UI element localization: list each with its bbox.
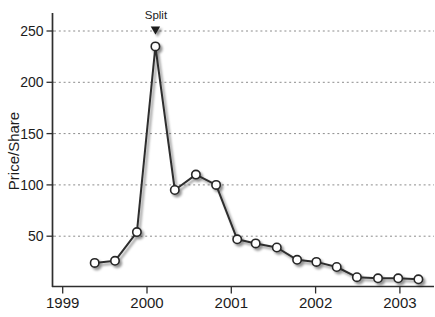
data-point-marker	[151, 42, 159, 50]
x-tick-labels: 19992000200120022003	[46, 294, 417, 311]
data-point-marker	[353, 273, 361, 281]
x-tick-label: 2001	[215, 294, 248, 311]
data-point-marker	[374, 274, 382, 282]
price-share-chart: 50100150200250 19992000200120022003 Pric…	[0, 0, 435, 317]
x-tick-label: 2003	[383, 294, 416, 311]
x-ticks	[63, 287, 400, 294]
data-point-marker	[111, 257, 119, 265]
data-point-marker	[252, 239, 260, 247]
split-annotation-label: Split	[145, 9, 168, 21]
y-tick-label: 100	[20, 177, 44, 193]
stock-price-figure: 50100150200250 19992000200120022003 Pric…	[0, 0, 435, 317]
split-triangle-icon	[151, 26, 160, 34]
split-annotation-marker	[151, 26, 160, 34]
y-tick-labels: 50100150200250	[20, 23, 44, 244]
y-tick-label: 50	[28, 228, 44, 244]
data-point-marker	[91, 259, 99, 267]
data-point-marker	[171, 186, 179, 194]
data-point-marker	[273, 243, 281, 251]
x-tick-label: 2000	[130, 294, 163, 311]
data-point-marker	[312, 258, 320, 266]
data-point-marker	[414, 275, 422, 283]
data-point-marker	[293, 256, 301, 264]
data-point-marker	[233, 235, 241, 243]
y-tick-label: 200	[20, 74, 44, 90]
data-point-marker	[333, 263, 341, 271]
axes	[52, 13, 434, 287]
data-point-marker	[192, 170, 200, 178]
y-tick-label: 250	[20, 23, 44, 39]
data-point-marker	[133, 228, 141, 236]
gridlines	[54, 31, 434, 236]
x-tick-label: 2002	[299, 294, 332, 311]
y-tick-label: 150	[20, 126, 44, 142]
data-point-marker	[394, 274, 402, 282]
y-axis-label: Price/Share	[5, 112, 22, 190]
x-tick-label: 1999	[46, 294, 79, 311]
price-series	[91, 42, 423, 283]
data-point-marker	[212, 181, 220, 189]
